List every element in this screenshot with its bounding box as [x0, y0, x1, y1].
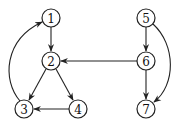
node-1: 1: [42, 9, 60, 27]
node-label: 5: [142, 12, 150, 26]
node-label: 4: [74, 103, 82, 117]
edge-2-3: [29, 69, 46, 100]
graph-diagram: 1 2 3 4 5 6 7: [0, 0, 181, 127]
edge-3-1: [9, 22, 42, 101]
node-5: 5: [137, 9, 155, 27]
node-4: 4: [69, 100, 87, 118]
node-label: 7: [142, 103, 150, 117]
node-label: 6: [142, 55, 150, 69]
edge-5-7: [153, 24, 170, 102]
node-3: 3: [15, 100, 33, 118]
node-7: 7: [137, 100, 155, 118]
edge-2-4: [56, 69, 73, 100]
node-label: 2: [47, 55, 55, 69]
node-label: 1: [47, 12, 55, 26]
node-6: 6: [137, 52, 155, 70]
node-label: 3: [20, 103, 28, 117]
node-2: 2: [42, 52, 60, 70]
